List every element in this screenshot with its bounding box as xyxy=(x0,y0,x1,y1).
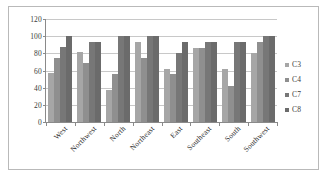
legend-swatch-icon xyxy=(285,108,289,112)
bar-group xyxy=(133,19,162,122)
plot-area: 020406080100120 xyxy=(45,19,277,123)
bar xyxy=(66,36,72,122)
bar xyxy=(269,36,275,122)
y-tick-label: 80 xyxy=(34,49,42,58)
bar xyxy=(153,36,159,122)
bar xyxy=(95,42,101,122)
y-tick-label: 0 xyxy=(38,118,42,127)
bar-group xyxy=(190,19,219,122)
legend-item: C7 xyxy=(285,87,319,102)
chart-legend: C3C4C7C8 xyxy=(285,57,319,117)
x-tick-label: South xyxy=(223,124,242,143)
x-tick-label: Northeast xyxy=(128,124,156,152)
x-tick-label: East xyxy=(169,124,185,140)
legend-item: C4 xyxy=(285,72,319,87)
x-tick-label: Northwest xyxy=(68,124,98,154)
bar-group xyxy=(104,19,133,122)
y-tick-label: 20 xyxy=(34,100,42,109)
x-tick-label: North xyxy=(108,124,127,143)
bar-group xyxy=(46,19,75,122)
legend-label: C7 xyxy=(292,90,301,99)
legend-swatch-icon xyxy=(285,78,289,82)
y-tick-label: 40 xyxy=(34,83,42,92)
x-tick-label: West xyxy=(52,124,69,141)
legend-item: C3 xyxy=(285,57,319,72)
bar-group xyxy=(75,19,104,122)
bar xyxy=(211,42,217,122)
bar-group xyxy=(162,19,191,122)
x-tick-label: Southwest xyxy=(242,124,272,154)
y-tick-label: 120 xyxy=(30,15,42,24)
legend-label: C4 xyxy=(292,75,301,84)
x-axis-labels: WestNorthwestNorthNortheastEastSoutheast… xyxy=(45,124,277,170)
bars-layer xyxy=(46,19,277,122)
bar xyxy=(240,42,246,122)
legend-label: C8 xyxy=(292,105,301,114)
bar-group xyxy=(248,19,277,122)
x-tick-mark xyxy=(277,122,278,126)
legend-item: C8 xyxy=(285,102,319,117)
y-tick-label: 100 xyxy=(30,32,42,41)
chart-figure: 020406080100120 WestNorthwestNorthNorthe… xyxy=(0,0,327,177)
bar xyxy=(182,42,188,122)
legend-label: C3 xyxy=(292,60,301,69)
legend-swatch-icon xyxy=(285,93,289,97)
bar-group xyxy=(219,19,248,122)
y-tick-label: 60 xyxy=(34,66,42,75)
bar xyxy=(124,36,130,122)
x-tick-label: Southeast xyxy=(185,124,213,152)
legend-swatch-icon xyxy=(285,63,289,67)
